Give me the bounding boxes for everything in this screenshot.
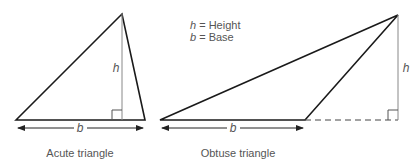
acute-right-angle-icon [112,110,122,120]
obtuse-height-label: h [403,61,410,75]
obtuse-right-angle-icon [388,110,398,120]
legend: h = Height b = Base [190,19,240,43]
acute-caption: Acute triangle [46,147,113,159]
acute-triangle: b h Acute triangle [16,14,145,159]
legend-height: h = Height [190,19,240,31]
legend-base-text: = Base [196,31,234,43]
acute-triangle-shape [16,14,145,120]
legend-base: b = Base [190,31,234,43]
diagram-canvas: b h Acute triangle b h Obtuse triangle h… [0,0,419,167]
obtuse-base-label: b [230,121,237,135]
acute-height-label: h [113,61,120,75]
legend-height-text: = Height [196,19,240,31]
acute-base-label: b [77,121,84,135]
obtuse-caption: Obtuse triangle [201,147,276,159]
triangle-diagram: b h Acute triangle b h Obtuse triangle h… [0,0,419,167]
